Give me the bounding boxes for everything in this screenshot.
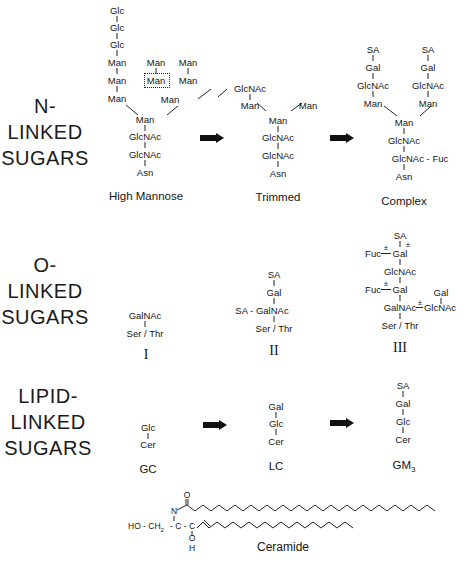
plus-minus: ± — [384, 278, 388, 289]
residue-sa-galnac: SA - GalNAc — [235, 305, 288, 316]
type-ii-numeral: II — [269, 343, 278, 359]
high-mannose-caption: High Mannose — [109, 190, 183, 202]
residue-man: Man — [299, 100, 317, 111]
bond — [274, 298, 275, 304]
residue-gal: Gal — [267, 287, 282, 298]
bond — [276, 429, 277, 435]
bond — [274, 316, 275, 322]
residue-ser-thr: Ser / Thr — [382, 320, 419, 331]
bond — [400, 277, 401, 283]
residue-gal: Gal — [393, 248, 408, 259]
residue-asn: Asn — [270, 168, 286, 179]
residue-sa: SA — [268, 269, 281, 280]
residue-glcnac: GlcNAc — [424, 302, 456, 313]
bond — [404, 164, 405, 170]
atom-o: O — [184, 490, 191, 501]
residue-man: Man — [241, 100, 259, 111]
residue-gal: Gal — [434, 287, 449, 298]
carbon-1: - C - — [170, 521, 187, 531]
residue-asn: Asn — [396, 171, 412, 182]
residue-gal: Gal — [421, 62, 436, 73]
bond — [373, 55, 374, 61]
residue-cer: Cer — [140, 439, 155, 450]
bond — [381, 289, 391, 290]
bond — [400, 295, 401, 301]
bond — [400, 241, 401, 247]
residue-man: Man — [108, 93, 126, 104]
residue-sa: SA — [422, 44, 435, 55]
n-trimmed-arrow — [200, 133, 224, 143]
bond — [400, 313, 401, 319]
bond — [278, 143, 279, 149]
residue-galnac: GalNAc — [384, 302, 417, 313]
bond — [400, 259, 401, 265]
residue-glcnac-fuc: GlcNAc - Fuc — [392, 153, 448, 164]
residue-glcnac: GlcNAc — [262, 150, 294, 161]
residue-man: Man — [395, 117, 413, 128]
bond — [381, 253, 391, 254]
residue-fuc: Fuc — [365, 284, 381, 295]
bond — [403, 427, 404, 433]
residue-ser-thr: Ser / Thr — [256, 323, 293, 334]
bond — [117, 68, 118, 74]
residue-man: Man — [179, 75, 197, 86]
residue-sa: SA — [367, 44, 380, 55]
residue-glcnac: GlcNAc — [234, 83, 266, 94]
residue-ser-thr: Ser / Thr — [127, 328, 164, 339]
residue-man: Man — [269, 115, 287, 126]
ho-ch2-group: HO - CH2 — [128, 521, 164, 533]
residue-man: Man — [147, 57, 165, 68]
residue-glcnac: GlcNAc — [129, 149, 161, 160]
type-iii-numeral: III — [393, 340, 407, 356]
residue-man: Man — [179, 57, 197, 68]
residue-gal: Gal — [393, 284, 408, 295]
residue-glcnac: GlcNAc — [357, 80, 389, 91]
residue-glcnac: GlcNAc — [388, 135, 420, 146]
residue-sa: SA — [394, 230, 407, 241]
ceramide-caption: Ceramide — [257, 540, 309, 554]
residue-gal: Gal — [396, 398, 411, 409]
bond — [117, 50, 118, 56]
plus-minus: ± — [418, 297, 422, 308]
residue-sa: SA — [397, 380, 410, 391]
bond — [145, 160, 146, 166]
bond — [373, 73, 374, 79]
residue-glcnac: GlcNAc — [384, 266, 416, 277]
bond — [428, 73, 429, 79]
complex-caption: Complex — [381, 195, 426, 207]
bond — [274, 280, 275, 286]
residue-galnac: GalNAc — [129, 310, 162, 321]
residue-glcnac: GlcNAc — [412, 80, 444, 91]
trimmed-caption: Trimmed — [256, 191, 301, 203]
lipid-gm3-arrow — [330, 418, 354, 428]
residue-man: Man — [147, 75, 165, 86]
bond — [428, 55, 429, 61]
residue-glcnac: GlcNAc — [129, 131, 161, 142]
residue-man: Man — [108, 75, 126, 86]
residue-glcnac: GlcNAc — [262, 132, 294, 143]
residue-gal: Gal — [366, 62, 381, 73]
bond — [278, 161, 279, 167]
residue-man: Man — [161, 94, 179, 105]
gm3-caption: GM3 — [393, 459, 416, 474]
residue-glc: Glc — [141, 422, 155, 433]
carbon-2: C — [189, 521, 195, 531]
atom-h: H — [189, 543, 195, 554]
bond — [145, 321, 146, 327]
gc-caption: GC — [139, 463, 156, 475]
residue-glc: Glc — [110, 22, 124, 33]
residue-glc: Glc — [396, 416, 410, 427]
bond — [428, 91, 429, 97]
bond — [373, 91, 374, 97]
residue-asn: Asn — [137, 167, 153, 178]
residue-man: Man — [108, 57, 126, 68]
lc-caption: LC — [269, 460, 284, 472]
bond — [404, 146, 405, 152]
residue-fuc: Fuc — [365, 248, 381, 259]
residue-cer: Cer — [268, 436, 283, 447]
residue-man: Man — [419, 98, 437, 109]
lipid-lc-arrow — [203, 420, 227, 430]
bond — [117, 86, 118, 92]
n-complex-arrow — [330, 133, 354, 143]
residue-glc: Glc — [110, 5, 124, 16]
